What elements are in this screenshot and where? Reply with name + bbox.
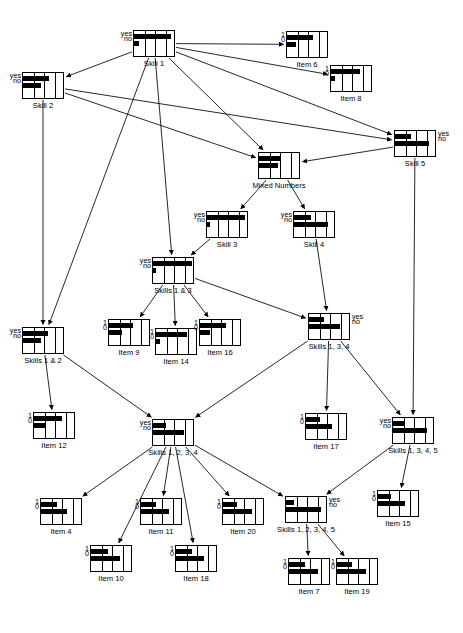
node-bar: [156, 339, 160, 344]
node-label-item14: Item 14: [125, 357, 227, 366]
node-chart-item12: [33, 412, 75, 439]
node-bar: [23, 83, 41, 88]
node-chart-skill5: [394, 130, 436, 157]
node-state-labels-item7: 10: [283, 559, 287, 570]
node-label-skills12345: Skills 1, 2, 3, 4, 5: [255, 525, 357, 534]
node-state-label: 0: [35, 504, 39, 509]
node-label-item15: Item 15: [347, 519, 449, 528]
node-gridline: [141, 320, 142, 345]
edge-skill4-to-skills134: [316, 239, 327, 311]
node-bar: [393, 421, 405, 426]
node-bar: [223, 509, 252, 514]
node-gridline: [173, 499, 174, 524]
node-state-label: 0: [170, 551, 174, 556]
node-label-skills1345: Skills 1, 3, 4, 5: [362, 446, 463, 455]
node-gridline: [341, 314, 342, 339]
node-bar: [395, 134, 411, 139]
node-state-label: 0: [194, 325, 198, 330]
node-gridline: [319, 32, 320, 57]
node-state-labels-item14: 10: [150, 329, 154, 340]
node-state-label: 0: [331, 564, 335, 569]
node-gridline: [338, 414, 339, 439]
node-chart-skill3: [206, 211, 248, 238]
node-state-labels-skills13: yesno: [140, 258, 151, 269]
node-bar: [331, 69, 360, 74]
node-state-labels-item16: 10: [194, 320, 198, 331]
node-chart-item7: [288, 558, 330, 585]
node-state-label: 0: [300, 419, 304, 424]
node-label-item19: Item 19: [306, 587, 408, 596]
node-chart-item19: [336, 558, 378, 585]
node-state-label: 0: [217, 504, 221, 509]
node-bar: [207, 222, 210, 227]
node-gridline: [410, 491, 411, 516]
node-gridline: [280, 153, 281, 178]
node-state-labels-skills1345: yesno: [380, 418, 391, 429]
node-chart-item20: [222, 498, 264, 525]
node-bar: [306, 424, 332, 429]
node-state-labels-item19: 10: [331, 559, 335, 570]
node-bar: [223, 502, 237, 507]
node-chart-item17: [305, 413, 347, 440]
node-label-skills13: Skills 1 & 3: [122, 286, 224, 295]
node-bar: [134, 34, 171, 39]
node-gridline: [255, 499, 256, 524]
node-state-label: 0: [281, 37, 285, 42]
node-chart-item18: [175, 545, 217, 572]
node-chart-item4: [40, 498, 82, 525]
node-gridline: [185, 420, 186, 445]
node-state-labels-skills134: yesno: [352, 314, 363, 325]
node-bar: [176, 549, 192, 554]
node-label-skills134: Skills 1, 3, 4: [278, 342, 380, 351]
node-bar: [331, 76, 335, 81]
node-state-labels-item10: 10: [85, 546, 89, 557]
node-state-label: 0: [103, 325, 107, 330]
node-state-labels-skills12: yesno: [10, 328, 21, 339]
node-bar: [294, 222, 328, 227]
node-chart-skill4: [293, 211, 335, 238]
node-chart-skills1234: [152, 419, 194, 446]
node-bar: [286, 500, 294, 505]
node-chart-item10: [90, 545, 132, 572]
bayesian-network-diagram: yesnoSkill 110Item 610Item 8yesnoSkill 2…: [0, 0, 463, 633]
node-state-labels-item18: 10: [170, 546, 174, 557]
node-bar: [141, 509, 169, 514]
node-chart-item16: [199, 319, 241, 346]
node-state-label: 0: [135, 504, 139, 509]
node-gridline: [369, 559, 370, 584]
node-state-labels-skill1: yesno: [121, 31, 132, 42]
edge-skills134-to-skills1345: [341, 341, 401, 415]
node-gridline: [55, 328, 56, 353]
node-label-skill1: Skill 1: [103, 59, 205, 68]
node-state-labels-item15: 10: [372, 491, 376, 502]
node-bar: [176, 556, 204, 561]
node-gridline: [232, 320, 233, 345]
node-bar: [207, 215, 245, 220]
node-chart-item6: [286, 31, 328, 58]
node-gridline: [321, 559, 322, 584]
node-state-labels-item9: 10: [103, 320, 107, 331]
node-bar: [141, 502, 156, 507]
node-bar: [109, 323, 133, 328]
node-bar: [34, 416, 62, 421]
node-bar: [287, 35, 313, 40]
node-bar: [306, 417, 320, 422]
node-chart-skills1345: [392, 417, 434, 444]
node-state-labels-skill3: yesno: [194, 212, 205, 223]
node-bar: [156, 332, 187, 337]
node-bar: [91, 549, 108, 554]
node-bar: [23, 76, 49, 81]
node-bar: [289, 569, 318, 574]
node-bar: [287, 42, 296, 47]
edge-skill5-to-skills1345: [413, 158, 415, 415]
node-chart-item11: [140, 498, 182, 525]
node-gridline: [291, 153, 292, 178]
node-state-label: 0: [283, 564, 287, 569]
node-bar: [153, 423, 166, 428]
node-chart-skills12345: [285, 496, 327, 523]
node-chart-mixednumbers: [258, 152, 300, 179]
node-state-label: 0: [372, 496, 376, 501]
node-bar: [34, 423, 46, 428]
node-state-label: 0: [85, 551, 89, 556]
node-bar: [200, 330, 210, 335]
